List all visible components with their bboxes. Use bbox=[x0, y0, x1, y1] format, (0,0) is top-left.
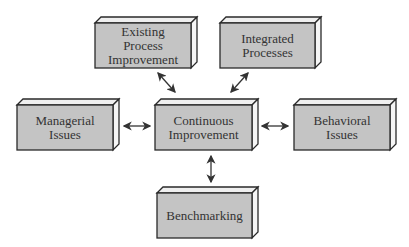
node-continuous-improvement: Continuous Improvement bbox=[155, 105, 252, 150]
node-label: Integrated bbox=[241, 32, 294, 46]
node-label: Issues bbox=[49, 128, 81, 142]
node-label: Behavioral bbox=[313, 114, 370, 128]
arrow-integrated-to-center bbox=[231, 73, 248, 92]
node-existing-process-improvement: Existing Process Improvement bbox=[95, 23, 191, 68]
node-label: Improvement bbox=[168, 128, 238, 142]
node-label: Managerial bbox=[35, 114, 94, 128]
node-label: Issues bbox=[326, 128, 358, 142]
node-label: Processes bbox=[242, 46, 293, 60]
node-label: Existing bbox=[121, 25, 164, 39]
node-label: Process bbox=[123, 39, 163, 53]
node-integrated-processes: Integrated Processes bbox=[220, 23, 315, 68]
node-behavioral-issues: Behavioral Issues bbox=[294, 105, 390, 150]
arrow-existing-to-center bbox=[158, 73, 175, 92]
node-label: Improvement bbox=[108, 53, 178, 67]
node-benchmarking: Benchmarking bbox=[157, 193, 252, 238]
node-label: Continuous bbox=[174, 114, 234, 128]
node-managerial-issues: Managerial Issues bbox=[17, 105, 113, 150]
node-label: Benchmarking bbox=[166, 209, 243, 223]
